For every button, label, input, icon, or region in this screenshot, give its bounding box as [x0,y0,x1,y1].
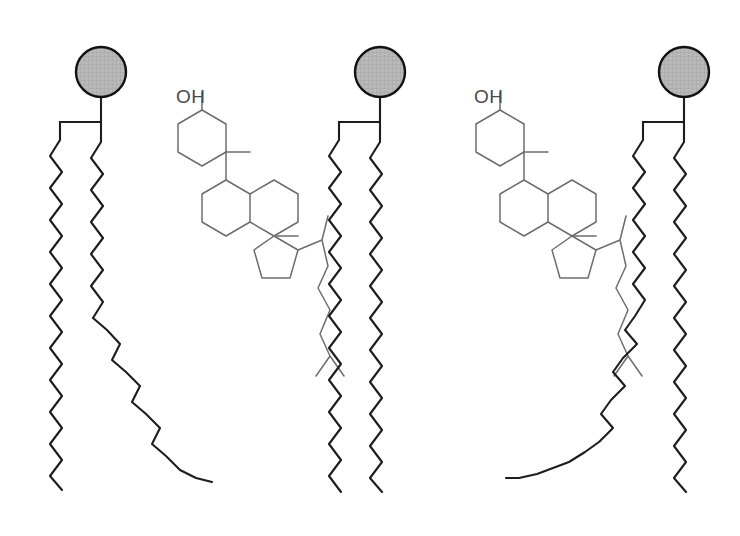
molecule-diagram-canvas: OH OH [0,0,740,536]
polar-head-group [76,47,126,97]
polar-head-group [659,47,709,97]
polar-head-group [355,47,405,97]
figure-root: OH OH [0,0,740,536]
hydroxyl-label-1: OH [176,86,205,107]
hydroxyl-label-2: OH [474,86,503,107]
